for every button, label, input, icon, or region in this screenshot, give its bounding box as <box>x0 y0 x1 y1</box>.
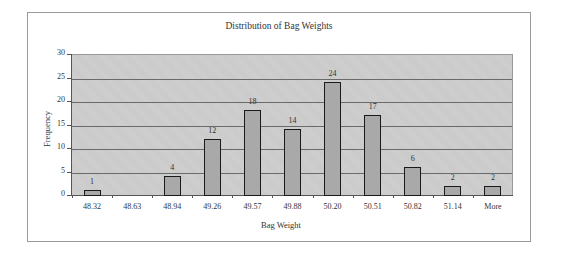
gridline <box>72 126 512 127</box>
bar-value-label: 4 <box>157 163 187 172</box>
x-tick-label: 50.51 <box>353 202 393 211</box>
y-tick-label: 5 <box>40 166 65 175</box>
y-tick-label: 25 <box>40 72 65 81</box>
y-axis-label: Frequency <box>42 99 52 159</box>
x-tick-label: 49.26 <box>192 202 232 211</box>
x-tick-mark <box>72 195 73 198</box>
bar-value-label: 2 <box>438 173 468 182</box>
x-tick-label: 48.32 <box>72 202 112 211</box>
bar-value-label: 14 <box>278 116 308 125</box>
bar <box>164 176 181 196</box>
y-tick-mark <box>67 101 71 102</box>
x-tick-mark <box>112 195 113 198</box>
x-tick-label: 48.63 <box>112 202 152 211</box>
y-tick-mark <box>67 195 71 196</box>
bar <box>284 129 301 196</box>
bar <box>84 190 101 196</box>
bar-value-label: 6 <box>398 154 428 163</box>
y-tick-mark <box>67 172 71 173</box>
x-tick-mark <box>152 195 153 198</box>
chart-title: Distribution of Bag Weights <box>28 21 530 31</box>
x-tick-mark <box>433 195 434 198</box>
y-tick-label: 30 <box>40 48 65 57</box>
x-tick-label: 50.20 <box>313 202 353 211</box>
bar <box>444 186 461 196</box>
bar-value-label: 17 <box>358 102 388 111</box>
gridline <box>72 79 512 80</box>
x-tick-mark <box>353 195 354 198</box>
x-tick-label: More <box>473 202 513 211</box>
y-tick-label: 0 <box>40 189 65 198</box>
x-tick-mark <box>232 195 233 198</box>
y-tick-mark <box>67 78 71 79</box>
bar <box>364 115 381 196</box>
bar <box>204 139 221 196</box>
gridline <box>72 102 512 103</box>
x-tick-mark <box>192 195 193 198</box>
x-tick-mark <box>272 195 273 198</box>
x-tick-label: 50.82 <box>393 202 433 211</box>
bar-value-label: 18 <box>237 97 267 106</box>
y-tick-mark <box>67 148 71 149</box>
bar-value-label: 12 <box>197 126 227 135</box>
bar-value-label: 1 <box>77 177 107 186</box>
x-tick-label: 49.88 <box>273 202 313 211</box>
x-axis-label: Bag Weight <box>0 220 562 230</box>
x-tick-label: 51.14 <box>433 202 473 211</box>
x-tick-mark <box>313 195 314 198</box>
x-tick-label: 48.94 <box>152 202 192 211</box>
y-tick-mark <box>67 125 71 126</box>
bar <box>484 186 501 196</box>
bar-value-label: 24 <box>318 69 348 78</box>
y-axis-line <box>71 54 72 196</box>
bar-value-label: 2 <box>478 173 508 182</box>
bar <box>244 110 261 196</box>
x-tick-label: 49.57 <box>232 202 272 211</box>
bar <box>404 167 421 196</box>
x-tick-mark <box>473 195 474 198</box>
x-tick-mark <box>393 195 394 198</box>
y-tick-mark <box>67 54 71 55</box>
bar <box>324 82 341 196</box>
